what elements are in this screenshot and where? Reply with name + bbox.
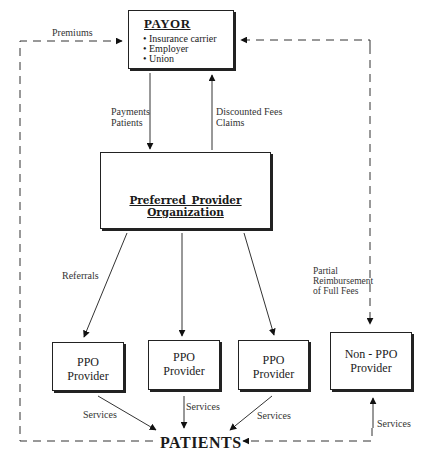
non-ppo-provider-box: Non - PPO Provider	[330, 332, 412, 390]
provider-line-2: Provider	[331, 361, 411, 375]
premiums-label: Premiums	[52, 27, 93, 38]
partial-label-line-3: of Full Fees	[313, 286, 373, 296]
provider-line-1: PPO	[53, 355, 123, 369]
provider-label: Non - PPO Provider	[331, 347, 411, 375]
referrals-label: Referrals	[62, 270, 99, 281]
ppo-provider-box-3: PPO Provider	[238, 340, 309, 390]
services-label-1: Services	[83, 409, 117, 420]
payor-list: Insurance carrier Employer Union	[143, 34, 216, 64]
referral-arrow-1	[84, 233, 127, 337]
partial-label-line-2: Reimbursement	[313, 276, 373, 286]
provider-label: PPO Provider	[149, 350, 219, 378]
payor-item-union: Union	[143, 54, 216, 64]
provider-line-2: Provider	[239, 367, 308, 381]
discounted-label-line-2: Claims	[216, 117, 282, 128]
services-label-2: Services	[186, 401, 220, 412]
payments-label-line-1: Payments	[111, 106, 150, 117]
partial-label-line-1: Partial	[313, 266, 373, 276]
payments-label: Payments Patients	[111, 106, 150, 128]
payor-box: PAYOR Insurance carrier Employer Union	[128, 10, 234, 69]
ppo-provider-box-2: PPO Provider	[148, 340, 220, 390]
provider-label: PPO Provider	[53, 355, 123, 383]
ppo-title: Preferred Provider Organization	[101, 194, 270, 218]
provider-line-1: Non - PPO	[331, 347, 411, 361]
discounted-fees-label: Discounted Fees Claims	[216, 106, 282, 128]
provider-label: PPO Provider	[239, 353, 308, 381]
ppo-box: Preferred Provider Organization	[100, 152, 271, 229]
provider-line-1: PPO	[239, 353, 308, 367]
partial-reimbursement-label: Partial Reimbursement of Full Fees	[313, 266, 373, 296]
provider-line-2: Provider	[53, 369, 123, 383]
services-label-3: Services	[257, 410, 291, 421]
payor-title: PAYOR	[144, 16, 191, 32]
services-label-nonppo: Services	[377, 418, 411, 429]
nonppo-patients-dashed-path	[243, 428, 372, 441]
discounted-label-line-1: Discounted Fees	[216, 106, 282, 117]
payments-label-line-2: Patients	[111, 117, 150, 128]
ppo-provider-box-1: PPO Provider	[52, 342, 124, 391]
provider-line-2: Provider	[149, 364, 219, 378]
referral-arrow-3	[244, 233, 274, 335]
provider-line-1: PPO	[149, 350, 219, 364]
patients-node: PATIENTS	[160, 434, 242, 452]
right-top-dashed-path	[241, 40, 370, 46]
